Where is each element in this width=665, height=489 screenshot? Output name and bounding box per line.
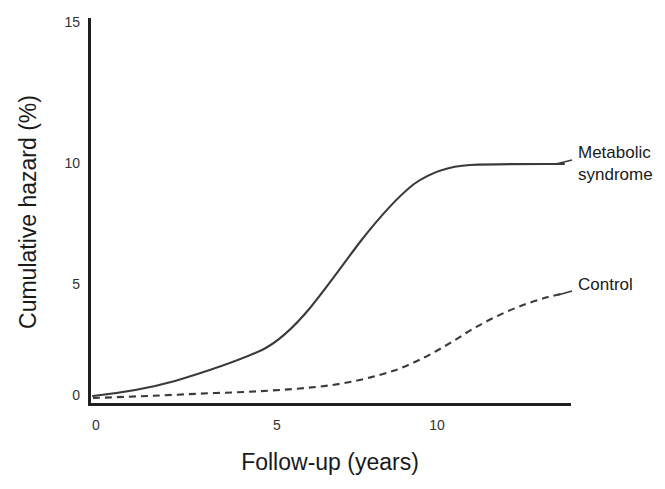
y-tick-label-15: 15 (64, 14, 80, 30)
x-tick-label-5: 5 (273, 417, 281, 433)
chart-background (0, 0, 665, 489)
y-tick-label-10: 10 (64, 155, 80, 171)
x-axis-title: Follow-up (years) (241, 449, 419, 475)
x-tick-label-10: 10 (429, 417, 445, 433)
cumulative-hazard-line-chart: 15 10 5 0 0 5 10 Follow-up (years) Cumul… (0, 0, 665, 489)
series-label-metabolic-syndrome-line2: syndrome (578, 165, 653, 184)
y-axis-title: Cumulative hazard (%) (15, 95, 41, 329)
series-label-control: Control (578, 275, 633, 294)
y-tick-label-0: 0 (72, 387, 80, 403)
chart-figure: 15 10 5 0 0 5 10 Follow-up (years) Cumul… (0, 0, 665, 489)
y-tick-label-5: 5 (72, 276, 80, 292)
series-label-metabolic-syndrome-line1: Metabolic (578, 143, 651, 162)
x-tick-label-0: 0 (92, 417, 100, 433)
